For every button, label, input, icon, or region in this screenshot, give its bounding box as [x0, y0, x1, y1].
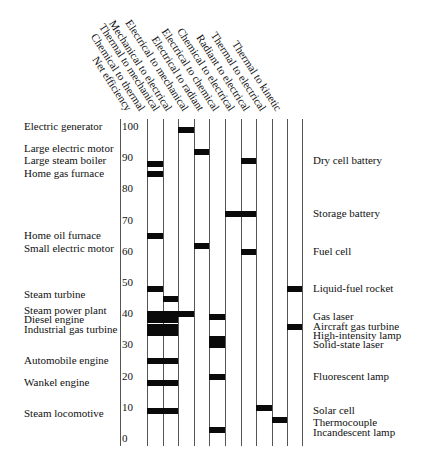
y-tick-label: 80	[122, 183, 144, 194]
column-divider	[225, 119, 226, 446]
device-label: Home oil furnace	[24, 230, 101, 241]
efficiency-bar	[147, 311, 194, 317]
device-label: Dry cell battery	[313, 155, 382, 166]
efficiency-bar	[147, 171, 163, 177]
efficiency-bar	[147, 286, 163, 292]
column-divider	[209, 119, 210, 446]
device-label: Industrial gas turbine	[24, 324, 117, 335]
device-label: Incandescent lamp	[313, 427, 395, 438]
device-label: Solid-state laser	[313, 339, 384, 350]
column-divider	[147, 119, 148, 446]
efficiency-bar	[147, 330, 178, 336]
efficiency-bar	[209, 427, 225, 433]
efficiency-bar	[241, 249, 256, 255]
efficiency-bar	[287, 324, 302, 330]
device-label: Wankel engine	[24, 377, 89, 388]
efficiency-bar	[256, 405, 272, 411]
efficiency-bar	[209, 314, 225, 320]
efficiency-bar	[272, 417, 287, 423]
efficiency-chart: Net efficiencyChemical to thermalThermal…	[0, 0, 422, 460]
efficiency-bar	[147, 161, 163, 167]
efficiency-bar	[209, 336, 225, 342]
device-label: Steam locomotive	[24, 408, 104, 419]
device-label: Automobile engine	[24, 355, 109, 366]
efficiency-bar	[147, 380, 178, 386]
y-tick-label: 60	[122, 246, 144, 257]
column-divider	[178, 119, 179, 446]
efficiency-bar	[287, 286, 302, 292]
y-tick-label: 40	[122, 308, 144, 319]
column-divider	[241, 119, 242, 446]
device-label: Electric generator	[24, 121, 102, 132]
column-divider	[163, 119, 164, 446]
y-tick-label: 0	[122, 433, 144, 444]
column-divider	[272, 119, 273, 446]
efficiency-bar	[147, 358, 178, 364]
device-label: Storage battery	[313, 208, 380, 219]
device-label: Solar cell	[313, 405, 355, 416]
y-tick-label: 100	[122, 121, 144, 132]
efficiency-bar	[194, 243, 209, 249]
device-label: Steam turbine	[24, 289, 85, 300]
efficiency-bar	[209, 342, 225, 348]
device-label: Fuel cell	[313, 246, 351, 257]
y-tick-label: 10	[122, 402, 144, 413]
column-divider	[256, 119, 257, 446]
efficiency-bar	[147, 324, 178, 330]
y-axis-line	[120, 119, 121, 446]
device-label: Large steam boiler	[24, 155, 106, 166]
y-tick-label: 30	[122, 339, 144, 350]
efficiency-bar	[147, 317, 178, 323]
y-tick-label: 70	[122, 215, 144, 226]
efficiency-bar	[241, 158, 256, 164]
device-label: Fluorescent lamp	[313, 371, 389, 382]
y-tick-label: 50	[122, 277, 144, 288]
column-divider	[302, 119, 303, 446]
efficiency-bar	[163, 296, 178, 302]
efficiency-bar	[194, 149, 209, 155]
device-label: Small electric motor	[24, 243, 114, 254]
device-label: Liquid-fuel rocket	[313, 283, 393, 294]
efficiency-bar	[178, 127, 194, 133]
column-divider	[287, 119, 288, 446]
efficiency-bar	[209, 374, 225, 380]
column-divider	[194, 119, 195, 446]
y-tick-label: 90	[122, 152, 144, 163]
efficiency-bar	[147, 233, 163, 239]
efficiency-bar	[225, 211, 256, 217]
efficiency-bar	[147, 408, 178, 414]
device-label: Home gas furnace	[24, 168, 104, 179]
y-tick-label: 20	[122, 371, 144, 382]
device-label: Large electric motor	[24, 143, 114, 154]
